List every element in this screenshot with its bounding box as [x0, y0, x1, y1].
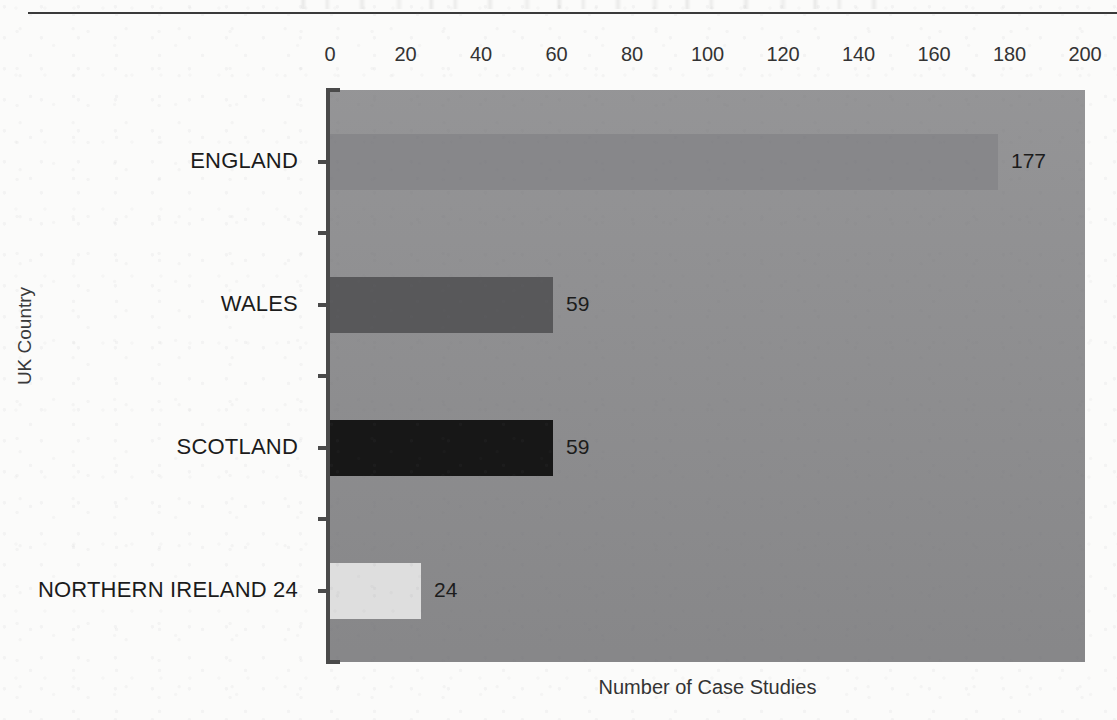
- category-label: NORTHERN IRELAND 24: [0, 577, 310, 603]
- bar-value-label: 59: [566, 292, 589, 316]
- chart-page: 020406080100120140160180200 177ENGLAND59…: [0, 0, 1117, 720]
- bar-value-label: 177: [1011, 149, 1046, 173]
- x-axis-tick-label: 80: [621, 43, 643, 66]
- header-divider-rule: [28, 12, 1117, 14]
- x-axis-tick-label: 100: [691, 43, 724, 66]
- y-axis-tick: [318, 374, 328, 378]
- x-axis-tick-label: 0: [325, 43, 336, 66]
- x-axis-tick-label: 60: [546, 43, 568, 66]
- y-axis-tick: [318, 517, 328, 521]
- y-axis-title: UK Country: [14, 266, 36, 406]
- x-axis-tick-label: 180: [993, 43, 1026, 66]
- cut-off-text-ghost: [300, 0, 900, 9]
- category-label: ENGLAND: [0, 148, 310, 174]
- x-axis-tick-label: 200: [1069, 43, 1102, 66]
- bar: [330, 563, 421, 619]
- x-axis-tick-label: 20: [395, 43, 417, 66]
- y-axis-top-cap: [326, 88, 340, 92]
- x-axis-title: Number of Case Studies: [330, 676, 1085, 699]
- bar: [330, 420, 553, 476]
- x-axis-tick-label: 160: [918, 43, 951, 66]
- y-axis-tick: [318, 303, 328, 307]
- y-axis-bottom-cap: [326, 660, 340, 664]
- category-label: SCOTLAND: [0, 434, 310, 460]
- y-axis-tick: [318, 231, 328, 235]
- category-label: WALES: [0, 291, 310, 317]
- x-axis-tick-label: 140: [842, 43, 875, 66]
- x-axis-tick-label: 120: [767, 43, 800, 66]
- y-axis-tick: [318, 589, 328, 593]
- bar: [330, 134, 998, 190]
- bar-value-label: 24: [434, 578, 457, 602]
- bar-value-label: 59: [566, 435, 589, 459]
- y-axis-tick: [318, 160, 328, 164]
- x-axis-tick-label: 40: [470, 43, 492, 66]
- x-axis-tick-labels: 020406080100120140160180200: [0, 43, 1117, 67]
- y-axis-tick: [318, 446, 328, 450]
- bar: [330, 277, 553, 333]
